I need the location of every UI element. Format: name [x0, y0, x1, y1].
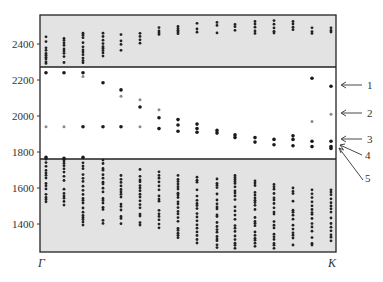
data-point — [158, 212, 161, 215]
data-point — [158, 181, 161, 184]
data-point — [62, 71, 66, 75]
data-point — [158, 195, 161, 198]
data-point — [273, 19, 276, 22]
data-point — [102, 55, 105, 58]
data-point — [177, 185, 180, 188]
data-point — [120, 174, 123, 177]
data-point — [45, 35, 48, 38]
data-point — [196, 231, 199, 234]
data-point — [45, 161, 48, 164]
data-point — [63, 200, 66, 203]
x-label-gamma: Γ — [37, 256, 46, 270]
data-point — [139, 42, 142, 45]
data-point — [196, 22, 199, 25]
data-point — [196, 207, 199, 210]
data-point — [120, 178, 123, 181]
data-point — [273, 213, 276, 216]
data-point — [254, 182, 257, 185]
data-point — [45, 165, 48, 168]
data-point — [139, 168, 142, 171]
data-point — [234, 210, 237, 213]
data-point — [63, 55, 66, 58]
data-point — [291, 138, 295, 142]
data-point — [158, 218, 161, 221]
data-point — [102, 219, 105, 222]
data-point — [196, 234, 199, 237]
data-point — [310, 145, 314, 149]
data-point — [233, 136, 237, 140]
data-point — [254, 30, 257, 33]
data-point — [44, 71, 48, 75]
data-point — [273, 202, 276, 205]
data-point — [273, 238, 276, 241]
data-point — [120, 40, 123, 43]
data-point — [311, 32, 314, 35]
data-point — [139, 215, 142, 218]
data-point — [119, 125, 123, 129]
data-point — [195, 127, 199, 131]
data-point — [216, 186, 219, 189]
data-point — [273, 185, 276, 188]
data-point — [158, 33, 161, 36]
data-point — [234, 247, 237, 250]
y-tick-1800: 1800 — [12, 146, 35, 158]
data-point — [292, 244, 295, 247]
data-point — [82, 61, 85, 64]
data-point — [158, 174, 161, 177]
data-point — [102, 35, 105, 38]
data-point — [82, 180, 85, 183]
data-point — [196, 227, 199, 230]
data-point — [102, 169, 105, 172]
data-point — [102, 183, 105, 186]
data-point — [63, 175, 66, 178]
data-point — [330, 233, 333, 236]
y-tick-1400: 1400 — [12, 218, 35, 230]
data-point — [273, 27, 276, 30]
data-point — [292, 224, 295, 227]
data-point — [45, 188, 48, 191]
data-point — [196, 199, 199, 202]
data-point — [311, 192, 314, 195]
data-point — [196, 181, 199, 184]
data-point — [311, 188, 314, 191]
data-point — [311, 204, 314, 207]
data-point — [139, 193, 142, 196]
data-point — [216, 239, 219, 242]
data-point — [120, 209, 123, 212]
data-point — [254, 222, 257, 225]
data-point — [234, 238, 237, 241]
data-point — [158, 177, 161, 180]
data-point — [177, 234, 180, 237]
data-point — [139, 38, 142, 41]
data-point — [102, 177, 105, 180]
data-point — [102, 199, 105, 202]
data-point — [158, 209, 161, 212]
data-point — [81, 125, 85, 129]
data-point — [177, 220, 180, 223]
data-point — [82, 189, 85, 192]
data-point — [254, 23, 257, 26]
data-point — [102, 49, 105, 52]
data-point — [330, 239, 333, 242]
data-point — [273, 247, 276, 250]
data-point — [292, 20, 295, 23]
data-point — [177, 183, 180, 186]
data-point — [234, 214, 237, 217]
data-point — [329, 85, 333, 89]
data-point — [216, 221, 219, 224]
data-point — [44, 156, 48, 160]
data-point — [177, 188, 180, 191]
data-point — [139, 203, 142, 206]
data-point — [82, 53, 85, 56]
data-point — [254, 242, 257, 245]
data-point — [82, 75, 85, 78]
y-tick-labels: 2400 2200 2000 1800 1600 1400 — [12, 38, 35, 230]
data-point — [139, 98, 142, 101]
data-point — [157, 127, 161, 131]
data-point — [102, 32, 105, 35]
data-point — [311, 226, 314, 229]
data-point — [216, 225, 219, 228]
data-point — [45, 174, 48, 177]
data-point — [292, 187, 295, 190]
data-point — [196, 176, 199, 179]
